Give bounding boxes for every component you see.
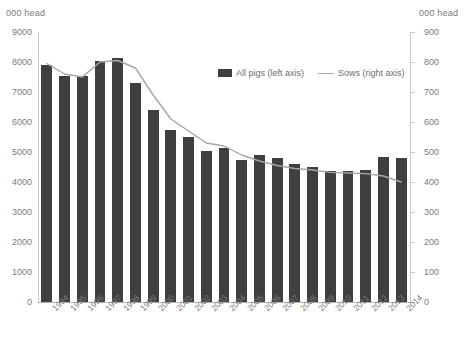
left-tick-5000: 5000 [2, 148, 32, 157]
x-label-1999: 1999 [138, 306, 145, 313]
left-tick-6000: 6000 [2, 118, 32, 127]
right-tick-mark-400 [411, 182, 415, 183]
x-label-2014: 2014 [404, 306, 411, 313]
x-label-1998: 1998 [121, 306, 128, 313]
right-tick-mark-800 [411, 62, 415, 63]
right-tick-mark-300 [411, 212, 415, 213]
legend-label-all-pigs: All pigs (left axis) [236, 68, 304, 78]
x-label-2006: 2006 [262, 306, 269, 313]
left-tick-0: 0 [2, 298, 32, 307]
line-swatch-icon [318, 73, 334, 74]
x-label-1995: 1995 [68, 306, 75, 313]
x-label-2003: 2003 [209, 306, 216, 313]
right-tick-500: 500 [424, 148, 439, 157]
sows-polyline [47, 61, 401, 183]
x-label-2008: 2008 [298, 306, 305, 313]
legend-label-sows: Sows (right axis) [338, 68, 405, 78]
x-label-2002: 2002 [192, 306, 199, 313]
left-axis-unit-label: 000 head [6, 8, 45, 18]
left-tick-9000: 9000 [2, 28, 32, 37]
right-tick-800: 800 [424, 58, 439, 67]
x-label-2005: 2005 [245, 306, 252, 313]
right-tick-mark-900 [411, 32, 415, 33]
right-tick-mark-700 [411, 92, 415, 93]
bar-swatch-icon [218, 69, 232, 77]
legend-item-sows: Sows (right axis) [318, 68, 405, 78]
x-label-2007: 2007 [280, 306, 287, 313]
right-tick-600: 600 [424, 118, 439, 127]
chart-legend: All pigs (left axis) Sows (right axis) [218, 68, 405, 78]
x-label-2001: 2001 [174, 306, 181, 313]
left-tick-2000: 2000 [2, 238, 32, 247]
left-tick-3000: 3000 [2, 208, 32, 217]
right-tick-mark-600 [411, 122, 415, 123]
x-label-2009: 2009 [316, 306, 323, 313]
x-label-2010: 2010 [333, 306, 340, 313]
right-tick-mark-200 [411, 242, 415, 243]
legend-item-all-pigs: All pigs (left axis) [218, 68, 304, 78]
x-label-1994: 1994 [50, 306, 57, 313]
right-tick-400: 400 [424, 178, 439, 187]
right-axis-unit-label: 000 head [419, 8, 458, 18]
right-axis-line [410, 32, 411, 303]
right-tick-300: 300 [424, 208, 439, 217]
left-tick-1000: 1000 [2, 268, 32, 277]
x-label-2011: 2011 [351, 306, 358, 313]
x-label-2000: 2000 [156, 306, 163, 313]
right-tick-mark-500 [411, 152, 415, 153]
right-tick-mark-100 [411, 272, 415, 273]
right-tick-100: 100 [424, 268, 439, 277]
left-tick-8000: 8000 [2, 58, 32, 67]
x-label-2013: 2013 [386, 306, 393, 313]
left-tick-4000: 4000 [2, 178, 32, 187]
pig-population-chart: 000 head 000 head 0100020003000400050006… [0, 0, 473, 356]
x-label-2012: 2012 [369, 306, 376, 313]
right-tick-0: 0 [424, 298, 429, 307]
right-tick-900: 900 [424, 28, 439, 37]
right-tick-700: 700 [424, 88, 439, 97]
x-label-1997: 1997 [103, 306, 110, 313]
left-tick-7000: 7000 [2, 88, 32, 97]
x-label-1996: 1996 [85, 306, 92, 313]
right-tick-200: 200 [424, 238, 439, 247]
x-label-2004: 2004 [227, 306, 234, 313]
